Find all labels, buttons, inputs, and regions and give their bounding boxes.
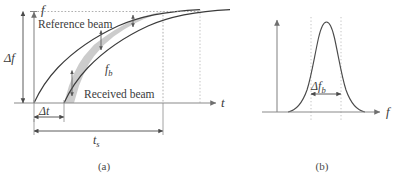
label-ts: ts — [93, 133, 100, 149]
label-received-beam: Received beam — [84, 88, 155, 100]
panel-b: Δfb f (b) — [262, 17, 392, 173]
caption-panel-a: (a) — [98, 160, 111, 173]
axis-label-f-a: f — [41, 2, 47, 17]
beat-spectrum-curve — [288, 22, 365, 112]
label-delta-t: Δt — [38, 104, 50, 118]
figure-container: f t Δf Δt ts Reference beam Received bea… — [0, 0, 408, 176]
label-reference-beam: Reference beam — [38, 18, 112, 30]
figure-svg: f t Δf Δt ts Reference beam Received bea… — [0, 0, 408, 176]
panel-a: f t Δf Δt ts Reference beam Received bea… — [3, 2, 230, 173]
axis-label-t-a: t — [221, 95, 225, 110]
label-delta-fb: Δfb — [310, 79, 326, 95]
axis-label-f-b: f — [386, 104, 392, 119]
caption-panel-b: (b) — [316, 160, 329, 173]
label-delta-f: Δf — [3, 51, 16, 65]
label-beat-frequency: fb — [105, 62, 113, 78]
